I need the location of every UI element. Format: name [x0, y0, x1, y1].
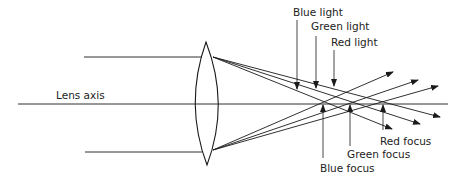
chromatic-aberration-diagram: Lens axis Blue light Green light Red lig… [0, 0, 461, 183]
convex-lens [195, 42, 218, 165]
blue-focus-label: Blue focus [320, 162, 375, 174]
red-focus-label: Red focus [380, 135, 431, 147]
red-light-label: Red light [331, 36, 378, 48]
green-focus-label: Green focus [347, 148, 410, 160]
green-light-label: Green light [311, 20, 369, 32]
refracted-rays-top [213, 57, 440, 129]
lens-axis-label: Lens axis [56, 89, 105, 101]
blue-light-label: Blue light [293, 6, 343, 18]
